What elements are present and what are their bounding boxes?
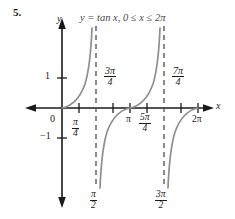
y-axis bbox=[58, 18, 66, 208]
tangent-branch-3 bbox=[130, 28, 160, 108]
x-tick-label-pi-over-4: π 4 bbox=[72, 118, 79, 138]
equation-title: y = tan x, 0 ≤ x ≤ 2π bbox=[80, 12, 165, 23]
tangent-branch-1 bbox=[62, 28, 92, 108]
pi-over-4-denominator: 4 bbox=[72, 129, 79, 139]
pi-over-2-denominator: 2 bbox=[90, 201, 97, 211]
x-tick-label-pi: π bbox=[126, 115, 131, 125]
x-tick-label-3pi-over-4: 3π 4 bbox=[104, 66, 116, 87]
five-pi-over-4-denominator: 4 bbox=[139, 124, 151, 134]
x-axis-label: x bbox=[216, 101, 220, 111]
y-axis-label: y bbox=[57, 14, 61, 24]
seven-pi-over-4-denominator: 4 bbox=[172, 77, 184, 87]
y-tick-label-neg-1: −1 bbox=[40, 131, 51, 141]
origin-label: 0 bbox=[50, 114, 55, 124]
three-pi-over-2-denominator: 2 bbox=[155, 201, 167, 211]
x-tick-label-7pi-over-4: 7π 4 bbox=[172, 66, 184, 87]
asymptote-label-pi-over-2: π 2 bbox=[90, 190, 97, 210]
x-tick-label-5pi-over-4: 5π 4 bbox=[139, 113, 151, 133]
equation-text: y = tan x, 0 ≤ x ≤ 2π bbox=[80, 12, 165, 23]
three-pi-over-4-denominator: 4 bbox=[104, 77, 116, 87]
tangent-graph bbox=[0, 0, 235, 219]
x-tick-label-2pi: 2π bbox=[192, 115, 202, 125]
x-axis bbox=[25, 104, 214, 112]
figure-container: 5. bbox=[0, 0, 235, 219]
asymptote-label-3pi-over-2: 3π 2 bbox=[155, 190, 167, 210]
y-tick-label-1: 1 bbox=[45, 71, 50, 81]
